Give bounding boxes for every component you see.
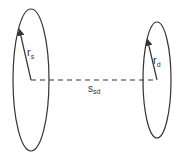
source-destination-disk-diagram: rs ssd rd <box>0 0 180 157</box>
source-radius-label: rs <box>27 46 35 60</box>
destination-radius-label: rd <box>153 54 161 68</box>
separation-label: ssd <box>88 83 101 95</box>
